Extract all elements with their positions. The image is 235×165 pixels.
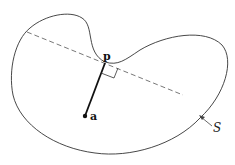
label-a: a — [90, 110, 97, 123]
label-s: S — [213, 121, 221, 135]
right-angle-marker — [101, 68, 118, 78]
closed-curve-s — [11, 14, 227, 154]
label-p: p — [103, 50, 111, 63]
point-a-dot — [83, 114, 87, 118]
diagram-canvas: p a S — [0, 0, 235, 165]
segment-a-p — [85, 63, 105, 116]
